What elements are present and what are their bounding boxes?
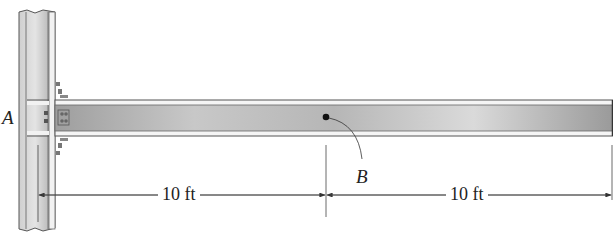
beam: [27, 100, 613, 136]
dimension-b-to-end: 10 ft: [446, 185, 488, 203]
label-a: A: [2, 107, 14, 129]
dimension-a-to-b: 10 ft: [158, 185, 200, 203]
cantilever-beam-diagram: [0, 0, 613, 234]
point-b-marker: [323, 114, 330, 121]
dimension-lines: [38, 145, 612, 222]
label-b: B: [356, 166, 368, 188]
support-column: [19, 10, 55, 231]
